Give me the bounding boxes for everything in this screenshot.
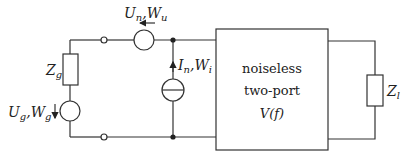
label-un-wu: Un,Wu xyxy=(124,5,168,23)
two-port-line1: noiseless xyxy=(242,61,302,76)
junction-bottom xyxy=(170,134,175,139)
wire-load-bottom xyxy=(328,106,375,139)
junction-top xyxy=(170,37,175,42)
label-zl: Zl xyxy=(386,83,400,101)
two-port-line3: V(f) xyxy=(260,106,284,121)
terminal-bottom xyxy=(101,134,107,140)
source-impedance-resistor xyxy=(63,54,78,85)
load-impedance-resistor xyxy=(367,75,383,106)
two-port-line2: two-port xyxy=(244,83,301,98)
wire-load-top xyxy=(328,41,375,75)
generator-source-circle xyxy=(60,101,80,121)
label-zg: Zg xyxy=(45,62,62,80)
noisy-two-port-circuit: Zg Ug,Wg Un,Wu In,Wi noiseless two-port … xyxy=(0,0,408,160)
label-ug-wg: Ug,Wg xyxy=(8,104,51,122)
voltage-noise-source xyxy=(134,30,154,50)
label-in-wi: In,Wi xyxy=(177,57,212,75)
terminal-top xyxy=(101,37,107,43)
